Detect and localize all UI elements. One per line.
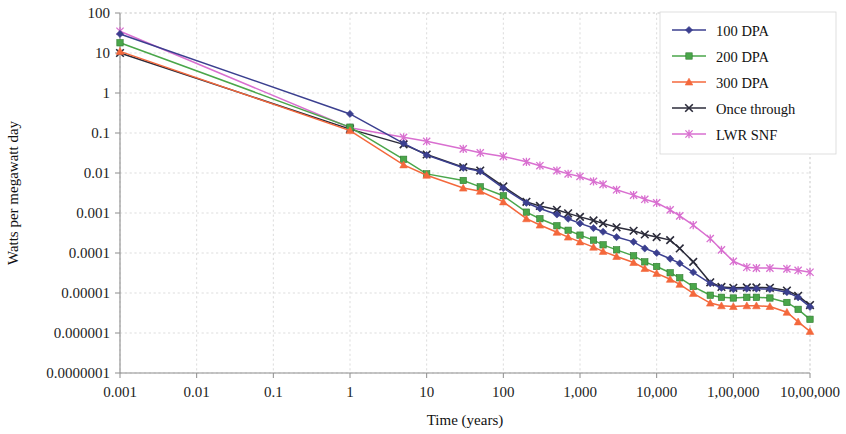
data-point-marker <box>667 206 674 214</box>
data-point-marker <box>718 294 724 300</box>
data-point-marker <box>641 265 649 272</box>
data-point-marker <box>599 228 606 235</box>
y-tick-label: 100 <box>88 5 111 21</box>
data-point-marker <box>690 221 697 229</box>
data-point-marker <box>641 245 648 252</box>
data-point-marker <box>653 263 659 269</box>
data-point-marker <box>766 286 773 293</box>
x-tick-label: 10,000 <box>636 384 677 400</box>
data-point-marker <box>676 281 684 288</box>
y-tick-label: 0.001 <box>76 205 110 221</box>
data-point-marker <box>576 220 583 227</box>
x-axis-title: Time (years) <box>427 412 504 429</box>
data-point-marker <box>590 177 597 185</box>
y-axis-title: Watts per megawatt day <box>5 120 21 265</box>
y-tick-label: 0.000001 <box>54 325 110 341</box>
data-point-marker <box>730 257 737 265</box>
x-tick-label: 0.01 <box>184 384 210 400</box>
legend-label: 300 DPA <box>716 75 770 91</box>
data-point-marker <box>718 246 725 254</box>
data-point-marker <box>690 283 696 289</box>
data-point-marker <box>613 186 620 194</box>
y-tick-label: 0.00001 <box>61 285 110 301</box>
y-tick-label: 0.01 <box>84 165 110 181</box>
x-tick-label: 1,00,000 <box>707 384 760 400</box>
data-point-marker <box>460 177 466 183</box>
data-point-marker <box>346 110 353 117</box>
legend-marker-square-icon <box>686 53 692 59</box>
data-point-marker <box>795 306 801 312</box>
data-point-marker <box>784 299 790 305</box>
data-point-marker <box>577 232 583 238</box>
y-tick-label: 0.0001 <box>69 245 110 261</box>
x-tick-label: 0.001 <box>103 384 137 400</box>
data-point-marker <box>744 294 750 300</box>
x-tick-label: 1,000 <box>563 384 597 400</box>
data-point-marker <box>536 221 544 228</box>
data-point-marker <box>667 255 674 262</box>
data-point-marker <box>117 40 123 46</box>
data-point-marker <box>590 224 597 231</box>
data-point-marker <box>653 249 660 256</box>
x-tick-label: 0.1 <box>264 384 283 400</box>
data-point-marker <box>707 292 713 298</box>
y-tick-label: 0.0000001 <box>46 365 110 381</box>
data-point-marker <box>730 295 736 301</box>
data-point-marker <box>807 316 813 322</box>
x-tick-label: 100 <box>492 384 515 400</box>
data-point-marker <box>630 191 637 199</box>
data-point-marker <box>743 285 750 292</box>
data-point-marker <box>753 285 760 292</box>
y-tick-label: 0.1 <box>91 125 110 141</box>
y-tick-label: 1 <box>103 85 111 101</box>
data-point-marker <box>590 237 596 243</box>
data-point-marker <box>707 234 714 242</box>
log-log-decay-heat-chart: 1001010.10.010.0010.00010.000010.0000010… <box>0 0 846 434</box>
data-point-marker <box>676 212 683 220</box>
data-point-marker <box>116 30 123 37</box>
legend-label: 100 DPA <box>716 23 770 39</box>
data-point-marker <box>599 180 606 188</box>
data-point-marker <box>689 258 697 266</box>
data-point-marker <box>730 286 737 293</box>
x-tick-label: 10 <box>419 384 434 400</box>
data-point-marker <box>706 299 714 306</box>
y-tick-label: 10 <box>95 45 110 61</box>
data-point-marker <box>767 295 773 301</box>
data-point-marker <box>676 245 684 253</box>
chart-container: 1001010.10.010.0010.00010.000010.0000010… <box>0 0 846 434</box>
data-point-marker <box>613 233 620 240</box>
x-tick-label: 10,00,000 <box>780 384 840 400</box>
legend-label: Once through <box>716 101 796 117</box>
legend-label: 200 DPA <box>716 49 770 65</box>
legend-label: LWR SNF <box>716 127 777 143</box>
chart-legend: 100 DPA200 DPA300 DPAOnce throughLWR SNF <box>660 12 836 154</box>
data-point-marker <box>753 294 759 300</box>
data-point-marker <box>565 227 571 233</box>
data-point-marker <box>689 290 697 297</box>
data-point-marker <box>630 238 637 245</box>
x-tick-label: 1 <box>346 384 354 400</box>
